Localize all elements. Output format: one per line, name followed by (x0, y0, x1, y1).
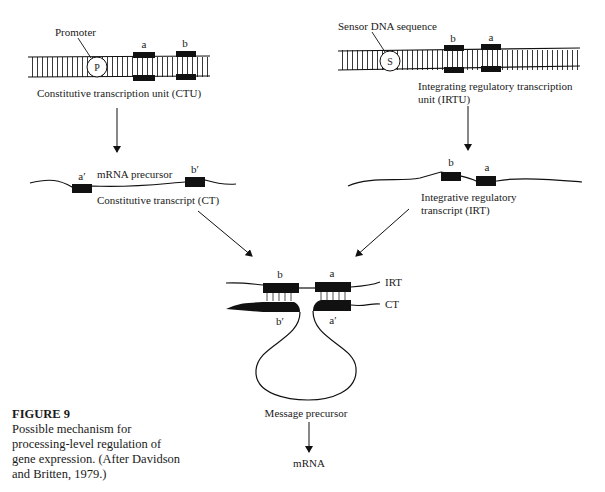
ctu-region-b-top (176, 51, 196, 57)
duplex-label-b-prime: b′ (276, 315, 284, 327)
ctu-region-a-top (133, 52, 155, 58)
arrow-irt-to-duplex (356, 209, 409, 256)
promoter-symbol: P (94, 62, 100, 73)
figure-caption: FIGURE 9 Possible mechanism for processi… (12, 407, 187, 482)
ct-label-a-prime: a′ (78, 170, 85, 182)
ct-label-top: mRNA precursor (97, 168, 173, 180)
ctu-caption: Constitutive transcription unit (CTU) (37, 87, 201, 100)
ct-transcript: a′ b′ mRNA precursor Constitutive transc… (30, 163, 236, 207)
ct-tag: CT (385, 298, 399, 310)
irt-transcript: b a Integrative regulatory transcript (I… (348, 156, 582, 217)
irt-caption-2: transcript (IRT) (421, 204, 490, 217)
irt-label-a: a (485, 161, 490, 173)
message-precursor-label: Message precursor (265, 407, 348, 419)
figure-caption-text: Possible mechanism for processing-level … (12, 422, 180, 481)
duplex-complex: b a b′ a′ IRT CT Message precursor mRNA (226, 267, 402, 469)
irtu-dna: S Sensor DNA sequence b a Integrating re… (338, 20, 580, 106)
irt-label-b: b (448, 156, 454, 168)
irtu-label-a: a (489, 31, 494, 43)
duplex-label-a: a (330, 267, 335, 279)
promoter-label: Promoter (55, 26, 96, 38)
irt-tag: IRT (385, 276, 402, 288)
irtu-label-b: b (450, 32, 456, 44)
irtu-caption-2: unit (IRTU) (418, 93, 471, 106)
arrow-ct-to-duplex (198, 211, 252, 256)
duplex-label-a-prime: a′ (329, 314, 336, 326)
irtu-caption-1: Integrating regulatory transcription (418, 80, 573, 92)
sensor-symbol: S (387, 56, 393, 67)
ctu-label-b: b (182, 37, 188, 49)
message-precursor-loop (256, 311, 356, 400)
ct-label-bottom: Constitutive transcript (CT) (97, 194, 220, 207)
ct-label-b-prime: b′ (191, 163, 199, 175)
figure-title: FIGURE 9 (12, 407, 187, 422)
ctu-dna: P Promoter a b Constitutive transcriptio… (28, 26, 210, 100)
irt-caption-1: Integrative regulatory (421, 191, 517, 203)
mrna-label: mRNA (293, 457, 325, 469)
duplex-label-b: b (277, 268, 283, 280)
ctu-label-a: a (142, 38, 147, 50)
sensor-label: Sensor DNA sequence (338, 20, 437, 32)
